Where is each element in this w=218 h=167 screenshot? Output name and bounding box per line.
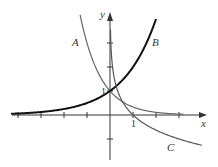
y-axis-label: y bbox=[99, 8, 105, 20]
y-tick-label-1: 1 bbox=[101, 86, 106, 97]
axis-ticks bbox=[18, 43, 179, 139]
curves bbox=[11, 15, 202, 145]
curve-b bbox=[11, 19, 156, 114]
x-axis-label: x bbox=[200, 117, 206, 129]
y-axis-arrow-icon bbox=[107, 12, 113, 21]
function-graph: x y 1 1 A B C bbox=[0, 0, 218, 167]
curve-b-label: B bbox=[152, 36, 159, 48]
curve-a-label: A bbox=[71, 36, 79, 48]
curve-c-label: C bbox=[167, 141, 175, 153]
x-tick-label-1: 1 bbox=[131, 118, 136, 129]
